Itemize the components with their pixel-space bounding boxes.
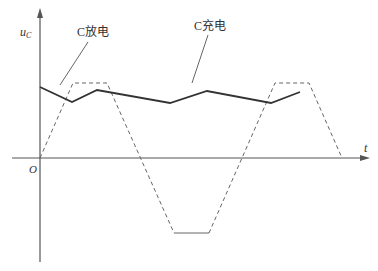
discharge-label: C放电	[77, 24, 109, 39]
x-axis-arrow-icon	[360, 155, 370, 161]
x-axis-label: t	[364, 141, 368, 155]
capacitor-voltage-line	[40, 87, 300, 103]
discharge-leader	[60, 42, 88, 85]
origin-label: O	[29, 163, 37, 175]
waveform-diagram: uC t O C放电 C充电	[0, 0, 378, 271]
y-axis-arrow-icon	[37, 8, 43, 18]
charge-leader	[192, 35, 208, 83]
charge-label: C充电	[194, 18, 226, 33]
y-axis-label: uC	[20, 25, 32, 40]
